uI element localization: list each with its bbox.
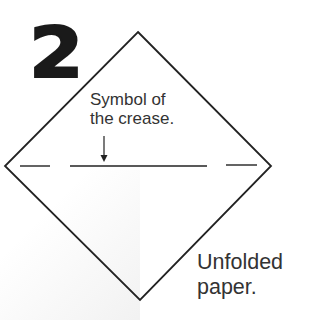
paper-label-line-2: paper. (197, 275, 283, 300)
pointer-arrow-icon (101, 136, 108, 162)
unfolded-paper-label: Unfolded paper. (197, 250, 283, 299)
paper-label-line-1: Unfolded (197, 250, 283, 275)
crease-label-line-1: Symbol of (90, 91, 174, 110)
step-number: 2 (29, 18, 84, 88)
crease-label-line-2: the crease. (90, 110, 174, 129)
crease-line (20, 165, 257, 166)
crease-symbol-label: Symbol of the crease. (90, 91, 174, 128)
